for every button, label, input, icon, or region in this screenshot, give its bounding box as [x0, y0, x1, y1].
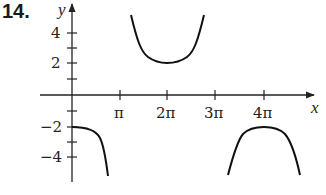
y-tick-label-neg4: −4: [40, 148, 62, 166]
x-axis-label: x: [310, 98, 319, 117]
y-tick-label-2: 2: [51, 54, 61, 72]
y-axis-label: y: [56, 0, 66, 19]
curve-branch-1: [72, 127, 108, 176]
y-tick-label-neg2: −2: [40, 118, 62, 136]
x-tick-label-2pi: 2π: [156, 104, 176, 122]
curve-branch-2: [131, 15, 204, 63]
curve-branch-3: [228, 127, 300, 175]
graph-canvas: x y π 2π 3π 4π 4 2 −2 −4: [0, 0, 326, 195]
x-tick-label-4pi: 4π: [253, 104, 273, 122]
x-tick-label-3pi: 3π: [204, 104, 224, 122]
x-tick-label-pi: π: [114, 104, 124, 122]
y-tick-label-4: 4: [51, 24, 61, 42]
